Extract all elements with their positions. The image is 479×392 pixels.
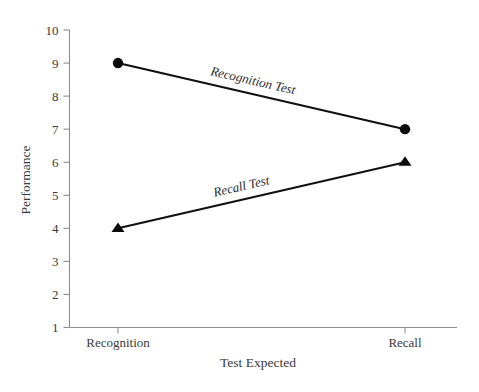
x-tick-label: Recognition xyxy=(86,335,150,350)
y-axis-title: Performance xyxy=(18,146,33,215)
y-tick-label: 5 xyxy=(52,188,59,203)
series-line xyxy=(118,63,405,129)
interaction-line-chart: 10987654321 RecognitionRecall Recognitio… xyxy=(0,0,479,392)
x-tick-label: Recall xyxy=(388,335,422,350)
series-line xyxy=(118,162,405,228)
y-tick-label: 1 xyxy=(52,320,59,335)
chart-figure: 10987654321 RecognitionRecall Recognitio… xyxy=(0,0,479,392)
y-tick-label: 7 xyxy=(52,122,59,137)
y-tick-label: 3 xyxy=(52,254,59,269)
y-tick-label: 10 xyxy=(46,23,59,38)
y-tick-label: 8 xyxy=(52,89,59,104)
circle-marker xyxy=(113,58,123,68)
series-label-layer: Recognition TestRecall Test xyxy=(208,63,297,200)
y-tick-label: 6 xyxy=(52,155,59,170)
y-tick-label: 2 xyxy=(52,287,59,302)
x-axis-title: Test Expected xyxy=(220,355,296,370)
circle-marker xyxy=(400,124,410,134)
y-tick-label: 9 xyxy=(52,56,59,71)
series-inline-label: Recognition Test xyxy=(208,63,297,97)
x-axis-ticks: RecognitionRecall xyxy=(86,328,422,350)
y-axis-ticks: 10987654321 xyxy=(46,23,70,336)
y-tick-label: 4 xyxy=(52,221,59,236)
triangle-marker xyxy=(399,156,412,166)
